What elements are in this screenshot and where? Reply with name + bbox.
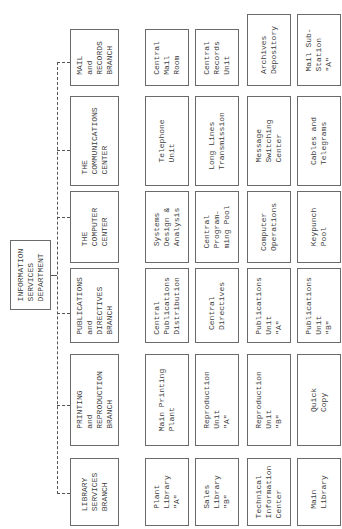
unit-label: Telephone Unit (157, 119, 177, 162)
branch-label: LIBRARY SERVICES BRANCH (80, 473, 110, 511)
branch-communications-center: THE COMMUNICATIONS CENTER (70, 96, 119, 186)
connector-branch-mail (57, 62, 70, 63)
branch-label: PRINTING and REPRODUCTION BRANCH (75, 371, 115, 429)
unit-label: Plant Library "A" (152, 475, 182, 509)
unit-label: Quick Copy (309, 388, 329, 412)
connector-branch-library (57, 493, 70, 494)
unit-label: Cables and Telegrams (309, 117, 329, 165)
unit-label: Central Mail Room (152, 41, 182, 75)
branch-printing-reproduction: PRINTING and REPRODUCTION BRANCH (70, 354, 119, 446)
branch-label: THE COMMUNICATIONS CENTER (80, 107, 110, 174)
unit-label: Sales Library "B" (202, 475, 232, 509)
unit-label: Mail Sub- Station "A" (304, 28, 334, 71)
unit-label: Central Publications Distribution (152, 277, 182, 335)
branch-bus-line (57, 62, 58, 494)
unit-label: Archives Depository (259, 26, 279, 74)
unit-label: Publications Unit "A" (254, 277, 284, 335)
unit-label: Central Records Unit (202, 41, 232, 75)
unit-systems-design: Systems Design & Analysis (145, 191, 189, 263)
unit-central-programming: Central Program- ming Pool (195, 191, 239, 263)
unit-label: Central Directives (207, 281, 227, 329)
unit-label: Computer Operations (259, 203, 279, 251)
department-box: INFORMATION SERVICES DEPARTMENT (10, 240, 51, 310)
unit-sales-library-b: Sales Library "B" (195, 458, 239, 526)
unit-main-library: Main Library (297, 458, 341, 526)
department-label: INFORMATION SERVICES DEPARTMENT (16, 249, 46, 302)
connector-branch-publications (57, 313, 70, 314)
unit-label: Main Library (309, 475, 329, 509)
branch-library-services: LIBRARY SERVICES BRANCH (70, 458, 119, 526)
unit-archives-depository: Archives Depository (247, 14, 291, 86)
connector-branch-printing (57, 405, 70, 406)
unit-central-records: Central Records Unit (195, 29, 239, 86)
unit-cables-telegrams: Cables and Telegrams (297, 96, 341, 186)
unit-long-lines: Long Lines Transmission (195, 96, 239, 186)
unit-publications-a: Publications Unit "A" (247, 268, 291, 343)
unit-label: Message Switching Center (254, 119, 284, 162)
unit-label: Keypunch Pool (309, 208, 329, 246)
unit-label: Systems Design & Analysis (152, 208, 182, 246)
unit-telephone: Telephone Unit (145, 96, 189, 186)
unit-reproduction-a: Reproduction Unit "A" (195, 354, 239, 446)
unit-publications-b: Publications Unit "B" (297, 268, 341, 343)
unit-keypunch-pool: Keypunch Pool (297, 191, 341, 263)
connector-branch-computer (57, 217, 70, 218)
unit-label: Publications Unit "B" (304, 277, 334, 335)
branch-label: MAIL and RECORDS BRANCH (75, 41, 115, 75)
unit-label: Technical Information Center (254, 466, 284, 519)
branch-mail-records: MAIL and RECORDS BRANCH (70, 29, 119, 86)
branch-computer-center: THE COMPUTER CENTER (70, 191, 119, 263)
unit-central-publications-distribution: Central Publications Distribution (145, 268, 189, 343)
unit-central-mail-room: Central Mail Room (145, 29, 189, 86)
branch-label: PUBLICATIONS and DIRECTIVES BRANCH (75, 277, 115, 335)
unit-reproduction-b: Reproduction Unit "B" (247, 354, 291, 446)
unit-label: Central Program- ming Pool (202, 205, 232, 248)
connector-branch-communications (57, 150, 70, 151)
unit-quick-copy: Quick Copy (297, 354, 341, 446)
unit-mail-substation-a: Mail Sub- Station "A" (297, 14, 341, 86)
unit-plant-library-a: Plant Library "A" (145, 458, 189, 526)
unit-computer-operations: Computer Operations (247, 191, 291, 263)
branch-publications-directives: PUBLICATIONS and DIRECTIVES BRANCH (70, 268, 119, 343)
unit-label: Main Printing Plant (157, 369, 177, 431)
unit-label: Reproduction Unit "B" (254, 371, 284, 429)
unit-message-switching: Message Switching Center (247, 96, 291, 186)
unit-technical-information-center: Technical Information Center (247, 458, 291, 526)
unit-central-directives: Central Directives (195, 268, 239, 343)
unit-label: Long Lines Transmission (207, 112, 227, 170)
branch-label: THE COMPUTER CENTER (80, 208, 110, 246)
unit-main-printing-plant: Main Printing Plant (145, 354, 189, 446)
unit-label: Reproduction Unit "A" (202, 371, 232, 429)
